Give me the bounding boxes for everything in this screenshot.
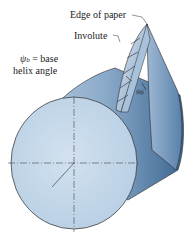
helix-angle-label: helix angle <box>13 65 57 76</box>
psi-eq: = base <box>30 53 58 64</box>
involute-label: Involute <box>74 30 107 41</box>
paper-flap <box>147 24 182 170</box>
edge-of-paper-label: Edge of paper <box>70 9 126 20</box>
